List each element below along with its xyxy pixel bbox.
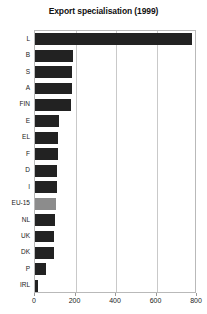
y-label-dk: DK (21, 248, 30, 255)
bar-i (35, 181, 57, 193)
bar-eu-15 (35, 198, 56, 210)
bar-b (35, 50, 73, 62)
y-label-s: S (26, 68, 30, 75)
y-label-l: L (26, 35, 30, 42)
x-axis-tick-labels: 0200400600800 (0, 296, 207, 310)
x-tick-600 (156, 293, 157, 296)
x-label-0: 0 (32, 296, 36, 305)
y-label-uk: UK (21, 232, 30, 239)
y-label-d: D (25, 166, 30, 173)
bar-l (35, 33, 192, 45)
x-label-400: 400 (109, 296, 121, 305)
export-specialisation-chart: Export specialisation (1999) LBSAFINEELF… (0, 0, 207, 314)
x-tick-200 (75, 293, 76, 296)
bar-irl (35, 280, 38, 292)
y-label-el: EL (22, 133, 30, 140)
y-label-p: P (26, 265, 30, 272)
x-label-200: 200 (69, 296, 81, 305)
bar-uk (35, 231, 54, 243)
y-label-nl: NL (22, 216, 30, 223)
x-tick-800 (196, 293, 197, 296)
bar-p (35, 263, 46, 275)
y-axis-category-labels: LBSAFINEELFDIEU-15NLUKDKPIRL (0, 30, 32, 293)
x-label-600: 600 (150, 296, 162, 305)
bar-nl (35, 214, 55, 226)
bar-a (35, 83, 72, 95)
x-label-800: 800 (190, 296, 202, 305)
chart-title: Export specialisation (1999) (0, 6, 207, 16)
bar-e (35, 115, 59, 127)
y-label-irl: IRL (20, 281, 30, 288)
y-label-e: E (26, 117, 30, 124)
bar-f (35, 148, 58, 160)
y-label-fin: FIN (20, 100, 30, 107)
bar-series (35, 31, 195, 292)
bar-d (35, 165, 57, 177)
bar-fin (35, 99, 71, 111)
plot-area (34, 30, 196, 293)
x-tick-0 (34, 293, 35, 296)
y-label-b: B (26, 51, 30, 58)
y-label-f: F (26, 150, 30, 157)
x-tick-400 (115, 293, 116, 296)
y-label-eu-15: EU-15 (12, 199, 30, 206)
bar-dk (35, 247, 54, 259)
bar-s (35, 66, 72, 78)
bar-el (35, 132, 58, 144)
y-label-a: A (26, 84, 30, 91)
y-label-i: I (28, 183, 30, 190)
